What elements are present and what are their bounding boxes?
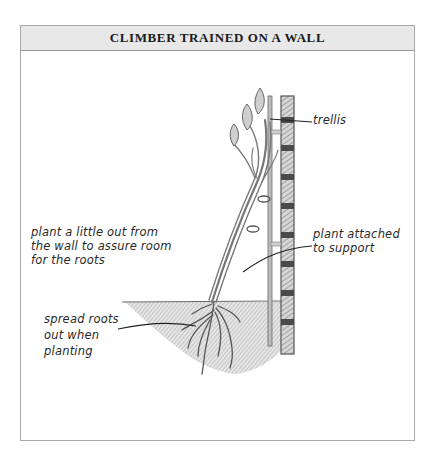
label-line: to support bbox=[313, 241, 400, 255]
label-line: trellis bbox=[313, 113, 346, 127]
label-line: for the roots bbox=[31, 253, 172, 267]
plant-ties bbox=[247, 196, 270, 232]
label-plant-out-from-wall: plant a little out from the wall to assu… bbox=[31, 225, 172, 267]
label-plant-attached: plant attached to support bbox=[313, 227, 400, 255]
label-line: planting bbox=[44, 343, 119, 359]
label-line: the wall to assure room bbox=[31, 239, 172, 253]
label-trellis: trellis bbox=[313, 113, 346, 127]
label-line: spread roots bbox=[44, 311, 119, 327]
leaves bbox=[230, 88, 264, 146]
label-spread-roots: spread roots out when planting bbox=[44, 311, 119, 359]
label-line: out when bbox=[44, 327, 119, 343]
label-line: plant attached bbox=[313, 227, 400, 241]
label-line: plant a little out from bbox=[31, 225, 172, 239]
brick-wall bbox=[281, 96, 294, 354]
